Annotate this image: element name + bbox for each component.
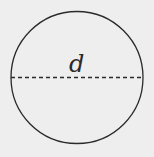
diameter-label: d	[69, 52, 84, 76]
circle-diagram	[0, 0, 154, 157]
diagram-canvas: d	[0, 0, 154, 157]
